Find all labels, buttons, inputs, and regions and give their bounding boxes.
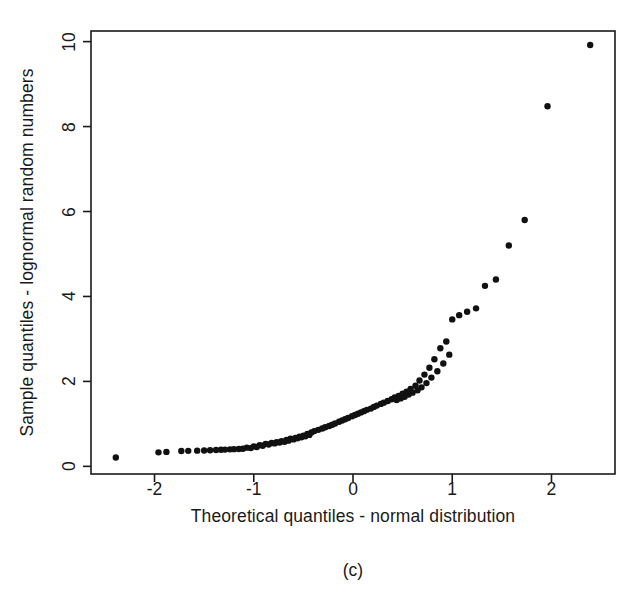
data-point [493,276,499,282]
data-point [155,449,161,455]
data-point [254,444,260,450]
data-point [440,360,446,366]
y-tick-label: 2 [58,366,80,396]
data-point [426,365,432,371]
data-point [185,448,191,454]
data-point [521,217,527,223]
data-point [473,305,479,311]
data-point [428,374,434,380]
data-point [421,371,427,377]
data-point [423,380,429,386]
data-point [113,454,119,460]
y-tick-label: 10 [58,27,80,57]
data-point [456,312,462,318]
data-point [464,309,470,315]
data-point [207,447,213,453]
x-tick-label: -1 [234,479,274,500]
data-point [213,447,219,453]
data-point [587,42,593,48]
scatter-data-points [113,42,594,461]
data-point [163,449,169,455]
data-point [506,242,512,248]
data-point [201,447,207,453]
x-axis-title: Theoretical quantiles - normal distribut… [91,506,615,527]
data-point [248,445,254,451]
data-point [306,432,312,438]
data-point [434,368,440,374]
data-point [482,283,488,289]
data-point [544,103,550,109]
data-point [416,377,422,383]
plot-frame-box [91,31,615,474]
y-tick-label: 4 [58,281,80,311]
y-tick-label: 8 [58,112,80,142]
data-point [259,443,265,449]
y-tick-label: 0 [58,451,80,481]
x-tick-label: 2 [531,479,571,500]
data-point [443,338,449,344]
x-tick-label: -2 [135,479,175,500]
data-point [240,446,246,452]
data-point [231,446,237,452]
y-tick-label: 6 [58,197,80,227]
x-tick-label: 1 [432,479,472,500]
data-point [194,447,200,453]
data-point [431,356,437,362]
data-point [437,345,443,351]
y-axis-ticks [83,42,91,467]
y-axis-title: Sample quantiles - lognormal random numb… [14,31,40,474]
data-point [178,448,184,454]
data-point [446,351,452,357]
qq-plot-figure: Sample quantiles - lognormal random numb… [0,0,636,603]
data-point [265,441,271,447]
data-point [222,446,228,452]
data-point [418,384,424,390]
data-point [449,316,455,322]
x-tick-label: 0 [333,479,373,500]
panel-caption: (c) [91,560,615,581]
